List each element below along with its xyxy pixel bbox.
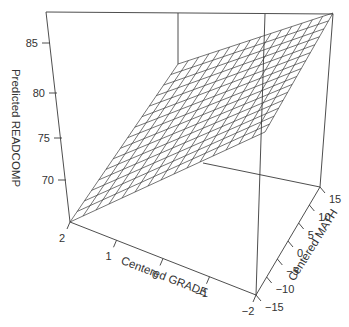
x-tick [67,222,70,229]
x-tick-label: 2 [59,232,65,244]
x-tick [253,295,256,302]
surface-grid-line [128,69,302,138]
z-tick-label: 80 [33,87,45,99]
surface-grid-line [84,116,274,201]
surface-grid-line [174,37,261,174]
box-bottom-back-edge [203,163,320,187]
y-tick [277,259,282,265]
box-top-edge [46,12,333,14]
surface-grid-line [113,84,292,158]
x-tick [114,240,117,247]
y-axis-label: Centered MATH [286,207,340,283]
y-tick-label: −15 [265,301,284,313]
regression-surface [70,13,333,222]
surface-grid-line [70,64,178,222]
y-tick [256,295,261,301]
y-tick [309,205,314,211]
plot-box [46,12,333,295]
surface-grid-line [142,53,310,117]
surface-grid-line [77,124,269,211]
box-right-back-edge [320,14,333,187]
surface-grid-line [187,33,271,168]
axis-ticks [42,43,325,302]
surface-grid-line [96,57,199,210]
z-tick-label: 85 [26,37,38,49]
z-axis-label: Predicted READCOMP [10,69,22,188]
surface-grid-line [213,27,292,156]
z-tick-label: 75 [38,132,50,144]
surface-grid-line [239,20,312,144]
surface-grid-line [83,61,188,216]
x-tick-label: 1 [105,250,111,262]
y-tick [288,241,293,247]
z-axis-line [46,12,70,222]
y-tick [299,223,304,229]
x-tick [207,277,210,284]
y-tick [320,187,325,193]
x-tick [160,259,163,266]
y-tick [267,277,272,283]
surface-grid-line [200,30,281,162]
surface-grid-line [70,132,265,222]
z-tick-label: 70 [42,174,54,186]
surface-grid-line [120,76,296,148]
box-front-right-edge [256,14,265,295]
x-axis-label: Centered GRADE [120,254,210,298]
y-tick-label: −10 [276,283,295,295]
y-tick-label: 15 [329,193,341,205]
x-tick-label: −2 [242,305,255,317]
surface-plot: 85807570210−1−2151050−5−10−15 Predicted … [0,0,349,327]
